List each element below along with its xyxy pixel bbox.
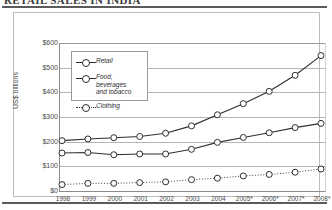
legend-line-dotted-icon bbox=[76, 103, 96, 113]
y-tick-500: $500 bbox=[16, 64, 58, 71]
legend-item-clothing: Clothing bbox=[72, 101, 147, 114]
chart-frame: US$ billions $600 $500 $400 $300 $200 $1… bbox=[13, 12, 320, 197]
legend-label-clothing: Clothing bbox=[96, 102, 120, 110]
figure-page: RETAIL SALES IN INDIA US$ billions $600 … bbox=[0, 0, 332, 210]
bottom-divider-rule bbox=[2, 202, 327, 204]
y-tick-600: $600 bbox=[16, 39, 58, 46]
y-tick-200: $200 bbox=[16, 138, 58, 145]
legend-label-line1: Food, beverages bbox=[96, 73, 126, 88]
y-tick-400: $400 bbox=[16, 88, 58, 95]
legend-item-food-beverages-tobacco: Food, beveragesand tobacco bbox=[72, 72, 147, 97]
y-tick-300: $300 bbox=[16, 113, 58, 120]
x-tick-2008: 2008* bbox=[307, 195, 332, 202]
legend-item-retail: Retail bbox=[72, 56, 147, 69]
legend-line-solid-icon bbox=[76, 74, 96, 84]
y-tick-100: $100 bbox=[16, 162, 58, 169]
legend-label-food-beverages-tobacco: Food, beveragesand tobacco bbox=[96, 73, 144, 96]
chart-legend: Retail Food, beveragesand tobacco Clothi… bbox=[71, 51, 148, 101]
legend-line-solid-icon bbox=[76, 58, 96, 68]
top-divider-rule bbox=[2, 6, 327, 8]
y-tick-0: $0 bbox=[16, 187, 58, 194]
legend-label-retail: Retail bbox=[96, 57, 113, 65]
legend-label-line2: and tobacco bbox=[96, 88, 131, 95]
